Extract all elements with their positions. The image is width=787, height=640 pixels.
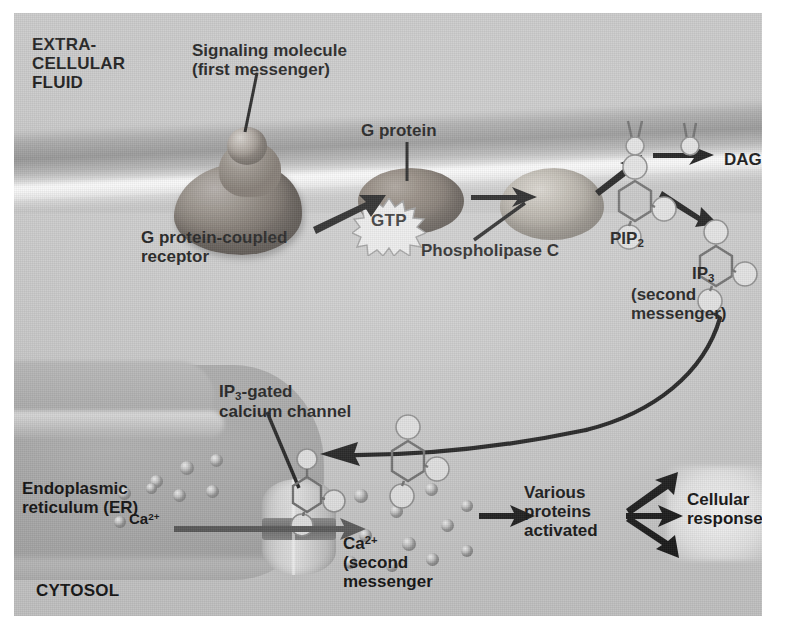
extracellular-fluid-line2: CELLULAR: [32, 54, 125, 73]
gpcr-line2: receptor: [141, 247, 287, 266]
ip3-gated-line1: IP3-gated: [219, 382, 351, 402]
various-line1: Various: [524, 483, 598, 502]
pip2-text: PIP: [610, 229, 637, 248]
curved-arrow-to-channel-tail: [344, 430, 586, 455]
leader-line-calcium-channel: [267, 412, 299, 488]
arrow-proteins-to-responses-down: [626, 516, 679, 558]
cellular-responses-label: Cellular responses: [687, 490, 762, 528]
calcium-cytosol-charge: 2+: [365, 534, 378, 546]
various-line3: activated: [524, 521, 598, 540]
phospholipase-c-label: Phospholipase C: [421, 241, 559, 260]
ip3-second-messenger-label: (second messenger): [631, 285, 762, 323]
arrow-proteins-to-responses-up: [626, 472, 678, 515]
various-proteins-activated-label: Various proteins activated: [524, 483, 598, 540]
ip3-gated-ip: IP: [219, 382, 235, 401]
signaling-molecule-line1: Signaling molecule: [192, 41, 347, 60]
endoplasmic-reticulum-label: Endoplasmic reticulum (ER): [22, 479, 138, 517]
calcium-cytosol-label: Ca2+ (second messenger: [343, 534, 433, 591]
extracellular-fluid-line3: FLUID: [32, 73, 125, 92]
extracellular-fluid-label: EXTRA- CELLULAR FLUID: [32, 35, 125, 92]
leader-line-signaling-molecule: [245, 73, 257, 132]
figure-plate: GTP: [14, 13, 762, 616]
curved-arrow-ip3-to-channel: [586, 318, 720, 430]
calcium-cytosol-line3: messenger: [343, 572, 433, 591]
various-line2: proteins: [524, 502, 598, 521]
calcium-er-charge: 2+: [148, 511, 159, 522]
g-protein-coupled-receptor-label: G protein-coupled receptor: [141, 228, 287, 266]
ip3-subscript: 3: [708, 272, 714, 284]
cytosol-label: CYTOSOL: [36, 581, 119, 600]
dag-label: DAG: [724, 150, 762, 169]
ip3-molecule-icon-bound: [291, 449, 345, 536]
dag-molecule-icon: [681, 123, 699, 155]
calcium-cytosol-line2: (second: [343, 553, 433, 572]
cellular-line2: responses: [687, 509, 762, 528]
cellular-line1: Cellular: [687, 490, 762, 509]
calcium-cytosol-line1: Ca2+: [343, 534, 433, 553]
ip3-text: IP: [692, 264, 708, 283]
arrow-g-protein-to-plc: [471, 187, 537, 207]
curved-arrow-head: [320, 442, 360, 466]
calcium-er-label: Ca2+: [129, 511, 159, 528]
arrow-receptor-to-g-protein: [313, 195, 386, 234]
er-line2: reticulum (ER): [22, 498, 138, 517]
ip3-gated-calcium-channel-label: IP3-gated calcium channel: [219, 382, 351, 422]
gpcr-line1: G protein-coupled: [141, 228, 287, 247]
leader-line-phospholipase-c: [474, 203, 525, 240]
signaling-molecule-line2: (first messenger): [192, 60, 347, 79]
pip2-subscript: 2: [637, 237, 643, 249]
pip2-label: PIP2: [610, 229, 644, 249]
figure-canvas: GTP: [0, 0, 787, 640]
ip3-label: IP3: [692, 264, 714, 284]
signaling-molecule-label: Signaling molecule (first messenger): [192, 41, 347, 79]
ip3-molecule-icon-transit: [390, 415, 449, 508]
ip3-gated-suffix: -gated: [241, 382, 292, 401]
arrow-calcium-efflux: [174, 518, 366, 540]
er-line1: Endoplasmic: [22, 479, 138, 498]
calcium-cytosol-text: Ca: [343, 534, 365, 553]
g-protein-label: G protein: [361, 121, 437, 140]
extracellular-fluid-line1: EXTRA-: [32, 35, 125, 54]
calcium-er-text: Ca: [129, 510, 148, 527]
ip3-gated-line2: calcium channel: [219, 402, 351, 421]
